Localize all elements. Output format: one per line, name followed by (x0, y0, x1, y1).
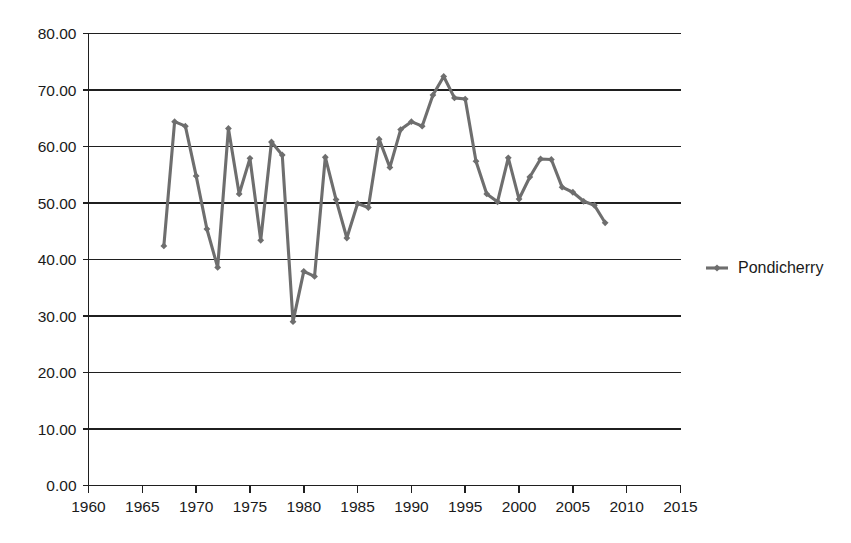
x-tick-label-1990: 1990 (394, 498, 429, 515)
x-tick-label-1965: 1965 (125, 498, 159, 515)
y-tick-label-20: 20.00 (38, 364, 77, 381)
data-point (204, 226, 211, 233)
data-point (236, 191, 243, 198)
data-point (462, 96, 469, 103)
line-chart: 0.0010.0020.0030.0040.0050.0060.0070.008… (0, 0, 851, 543)
data-point (225, 125, 232, 132)
x-tick-label-2005: 2005 (556, 498, 590, 515)
data-point (160, 243, 167, 250)
data-point (214, 264, 221, 271)
y-tick-label-80: 80.00 (38, 25, 77, 42)
data-series-group (160, 73, 608, 325)
y-tick-label-60: 60.00 (38, 138, 77, 155)
data-point (343, 235, 350, 242)
data-point (333, 196, 340, 203)
y-tick-label-50: 50.00 (38, 195, 77, 212)
y-axis-tick-labels: 0.0010.0020.0030.0040.0050.0060.0070.008… (38, 25, 77, 494)
chart-canvas: 0.0010.0020.0030.0040.0050.0060.0070.008… (0, 0, 851, 543)
data-point (193, 172, 200, 179)
y-tick-label-10: 10.00 (38, 421, 77, 438)
x-tick-label-2010: 2010 (609, 498, 644, 515)
y-tick-label-70: 70.00 (38, 82, 77, 99)
x-tick-label-1975: 1975 (233, 498, 267, 515)
series-line-pondicherry (164, 76, 605, 321)
data-point (505, 154, 512, 161)
x-tick-label-1970: 1970 (179, 498, 214, 515)
y-tick-label-30: 30.00 (38, 308, 77, 325)
y-tick-label-40: 40.00 (38, 251, 77, 268)
x-tick-label-1980: 1980 (287, 498, 322, 515)
y-tick-label-0: 0.00 (46, 477, 77, 494)
x-tick-label-2015: 2015 (663, 498, 697, 515)
x-tick-label-1960: 1960 (71, 498, 106, 515)
data-point (290, 318, 297, 325)
legend-label: Pondicherry (738, 259, 823, 276)
x-tick-label-2000: 2000 (502, 498, 537, 515)
legend-item-pondicherry: Pondicherry (706, 259, 823, 276)
data-point (247, 155, 254, 162)
series-pondicherry (160, 73, 608, 325)
data-point (322, 154, 329, 161)
chart-legend: Pondicherry (706, 259, 823, 276)
x-axis-ticks (89, 486, 681, 493)
legend-marker-swatch (713, 264, 720, 271)
x-axis-tick-labels: 1960196519701975198019851990199520002005… (71, 498, 697, 515)
gridlines (89, 34, 681, 486)
x-tick-label-1995: 1995 (448, 498, 482, 515)
data-point (257, 237, 264, 244)
x-tick-label-1985: 1985 (340, 498, 374, 515)
